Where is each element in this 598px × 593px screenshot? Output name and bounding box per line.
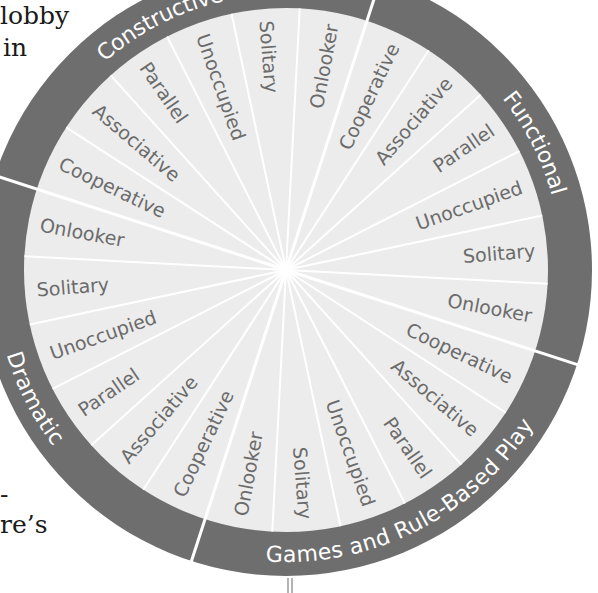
- play-types-wheel: CooperativeAssociativeParallelUnoccupied…: [0, 0, 598, 593]
- stem-lines: [288, 578, 292, 593]
